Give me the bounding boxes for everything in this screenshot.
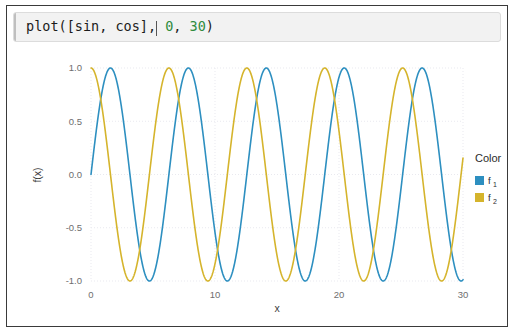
legend-title: Color	[475, 152, 502, 164]
legend: Color f1f2	[475, 152, 502, 205]
code-cell-accent-bar	[14, 13, 16, 41]
y-tick-label: 0.5	[69, 116, 82, 127]
y-tick-label: -1.0	[66, 275, 82, 286]
code-token-number-start: 0	[165, 20, 173, 34]
y-tick-label: -0.5	[66, 222, 82, 233]
code-input-cell[interactable]: plot([sin, cos], 0, 30)	[13, 12, 501, 42]
x-axis-ticks: 0102030	[88, 289, 468, 300]
legend-entry-subscript: 1	[493, 181, 497, 188]
legend-swatch[interactable]	[475, 193, 484, 202]
legend-items: f1f2	[475, 175, 497, 205]
y-tick-label: 0.0	[69, 169, 82, 180]
code-line[interactable]: plot([sin, cos], 0, 30)	[14, 20, 214, 35]
x-tick-label: 10	[210, 289, 221, 300]
legend-entry-subscript: 2	[493, 198, 497, 205]
code-token-space	[157, 20, 165, 34]
y-axis-ticks: -1.0-0.50.00.51.0	[66, 62, 82, 286]
y-axis-title: f(x)	[31, 167, 43, 182]
code-token-close-paren: )	[206, 20, 214, 34]
x-tick-label: 0	[88, 289, 93, 300]
plot-figure: -1.0-0.50.00.51.0 0102030 x f(x) Color f…	[7, 44, 507, 326]
code-token-number-end: 30	[190, 20, 206, 34]
y-tick-label: 1.0	[69, 62, 82, 73]
notebook-card: plot([sin, cos], 0, 30) -1.0-0.50.00.51.…	[6, 5, 508, 327]
x-tick-label: 20	[334, 289, 345, 300]
legend-entry-label: f	[488, 175, 491, 186]
plot-svg: -1.0-0.50.00.51.0 0102030 x f(x) Color f…	[7, 44, 507, 326]
x-tick-label: 30	[458, 289, 469, 300]
code-token-comma: ,	[173, 20, 189, 34]
code-token-prefix: plot([sin, cos],	[26, 20, 156, 34]
legend-entry-label: f	[488, 192, 491, 203]
plot-output-window: plot([sin, cos], 0, 30) -1.0-0.50.00.51.…	[0, 0, 514, 333]
text-cursor	[156, 21, 157, 36]
x-axis-title: x	[274, 302, 280, 314]
legend-swatch[interactable]	[475, 176, 484, 185]
